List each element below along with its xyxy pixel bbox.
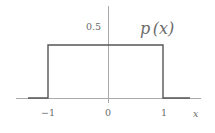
x-axis-label: x: [193, 109, 198, 119]
function-name: p: [140, 19, 150, 38]
x-tick-label-one: 1: [152, 108, 176, 118]
x-tick-label-zero: 0: [96, 108, 120, 118]
function-close-paren: ): [168, 19, 174, 38]
x-tick-label-negative-one: −1: [36, 108, 60, 118]
function-argument: x: [159, 19, 168, 38]
y-value-label: 0.5: [86, 22, 101, 32]
probability-density-figure: 0.5 p(x) −1 0 1 x: [0, 0, 215, 133]
curve-name-label: p(x): [140, 21, 174, 37]
